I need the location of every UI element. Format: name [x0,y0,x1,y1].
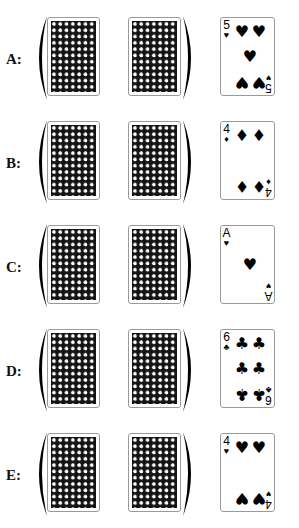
card-corner-index: 4 ♦ [222,124,231,144]
face-down-card[interactable] [47,17,100,96]
face-down-card[interactable] [128,121,181,200]
option-label: E: [6,467,21,484]
option-row-a[interactable]: A: 5 ♥ ♥♥♥♥♥ 5 ♥ [0,17,299,99]
card-back-pattern-icon [51,229,96,300]
suit-icon: ♥ [222,31,231,40]
right-bracket-icon [181,15,197,101]
card-rank: 4 [264,186,273,197]
face-up-card[interactable]: 5 ♥ ♥♥♥♥♥ 5 ♥ [220,17,275,96]
face-down-card[interactable] [47,329,100,408]
card-corner-index: 5 ♥ [264,73,273,93]
suit-icon: ♥ [222,239,231,248]
right-bracket-icon [181,327,197,413]
face-up-card[interactable]: 6 ♣ ♣♣♣♣♣♣ 6 ♣ [220,329,275,408]
face-down-card[interactable] [47,225,100,304]
right-bracket-icon [181,119,197,205]
card-back-pattern-icon [51,21,96,92]
suit-pip-icon: ♣ [251,361,267,377]
face-down-card[interactable] [47,121,100,200]
suit-icon: ♥ [222,447,231,456]
face-down-card[interactable] [128,17,181,96]
suit-pip-icon: ♣ [234,336,250,352]
suit-pip-icon: ♥ [234,490,250,506]
card-corner-index: A ♥ [222,228,231,248]
suit-icon: ♣ [222,343,231,352]
card-back-pattern-icon [51,437,96,508]
card-rank: 4 [264,498,273,509]
suit-pip-icon: ♦ [234,128,250,144]
option-row-d[interactable]: D: 6 ♣ ♣♣♣♣♣♣ 6 ♣ [0,329,299,411]
option-row-b[interactable]: B: 4 ♦ ♦♦♦♦ 4 ♦ [0,121,299,203]
suit-pip-icon: ♣ [234,386,250,402]
card-rank: A [264,290,273,301]
suit-pip-icon: ♥ [234,440,250,456]
card-corner-index: 4 ♥ [264,489,273,509]
right-bracket-icon [181,431,197,517]
card-back-pattern-icon [132,125,177,196]
card-back-pattern-icon [132,437,177,508]
option-row-e[interactable]: E: 4 ♥ ♥♥♥♥ 4 ♥ [0,433,299,515]
face-up-card[interactable]: A ♥ ♥ A ♥ [220,225,275,304]
option-label: C: [6,259,22,276]
option-label: A: [6,51,22,68]
suit-pip-icon: ♥ [234,24,250,40]
card-back-pattern-icon [132,21,177,92]
card-corner-index: 6 ♣ [264,385,273,405]
card-back-pattern-icon [51,333,96,404]
suit-pip-icon: ♣ [251,336,267,352]
card-corner-index: 4 ♥ [222,436,231,456]
suit-pip-icon: ♥ [234,74,250,90]
suit-pip-icon: ♥ [242,49,258,65]
face-down-card[interactable] [128,433,181,512]
face-down-card[interactable] [47,433,100,512]
card-corner-index: 4 ♦ [264,177,273,197]
face-down-card[interactable] [128,225,181,304]
suit-pip-icon: ♣ [234,361,250,377]
option-row-c[interactable]: C: A ♥ ♥ A ♥ [0,225,299,307]
card-rank: 5 [264,82,273,93]
suit-pip-icon: ♥ [242,257,258,273]
suit-pip-icon: ♥ [251,24,267,40]
face-down-card[interactable] [128,329,181,408]
right-bracket-icon [181,223,197,309]
card-corner-index: 6 ♣ [222,332,231,352]
suit-pip-icon: ♦ [234,178,250,194]
option-label: D: [6,363,22,380]
card-corner-index: 5 ♥ [222,20,231,40]
card-back-pattern-icon [132,229,177,300]
face-up-card[interactable]: 4 ♦ ♦♦♦♦ 4 ♦ [220,121,275,200]
card-back-pattern-icon [132,333,177,404]
suit-pip-icon: ♦ [251,128,267,144]
suit-pip-icon: ♥ [251,440,267,456]
card-rank: 6 [264,394,273,405]
card-back-pattern-icon [51,125,96,196]
option-label: B: [6,155,21,172]
card-corner-index: A ♥ [264,281,273,301]
face-up-card[interactable]: 4 ♥ ♥♥♥♥ 4 ♥ [220,433,275,512]
suit-icon: ♦ [222,135,231,144]
